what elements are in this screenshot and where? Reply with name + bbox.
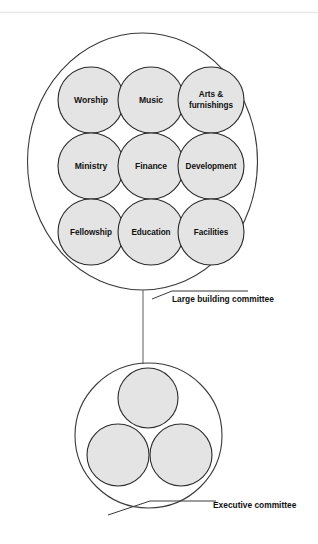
node-circle-arts-and-furnishings [178, 67, 244, 133]
node-label-fellowship: Fellowship [70, 228, 112, 237]
node-arts-and-furnishings[interactable]: Arts & furnishings [178, 67, 244, 133]
node-executive-left[interactable] [87, 424, 149, 486]
large-building-committee-group[interactable]: Worship Music Arts & furnishings Ministr… [28, 33, 258, 290]
node-executive-top[interactable] [118, 368, 178, 428]
node-circle-executive-right [150, 424, 212, 486]
executive-committee-group[interactable] [75, 363, 222, 508]
node-music[interactable]: Music [118, 67, 184, 133]
node-finance[interactable]: Finance [118, 133, 184, 199]
node-development[interactable]: Development [178, 133, 244, 199]
diagram-canvas: Worship Music Arts & furnishings Ministr… [0, 0, 318, 544]
node-circle-executive-top [118, 368, 178, 428]
executive-committee-leader-line [108, 501, 216, 515]
node-label-arts-and-furnishings-line1: Arts & [199, 90, 223, 99]
large-committee-caption: Large building committee [172, 294, 274, 304]
node-label-education: Education [131, 228, 170, 237]
node-executive-right[interactable] [150, 424, 212, 486]
node-education[interactable]: Education [118, 199, 184, 265]
node-label-music: Music [139, 95, 163, 105]
node-worship[interactable]: Worship [58, 67, 124, 133]
node-ministry[interactable]: Ministry [58, 133, 124, 199]
node-label-development: Development [186, 162, 237, 171]
node-circle-executive-left [87, 424, 149, 486]
node-facilities[interactable]: Facilities [178, 199, 244, 265]
executive-committee-caption: Executive committee [213, 500, 297, 510]
node-label-facilities: Facilities [194, 228, 229, 237]
node-label-worship: Worship [74, 95, 108, 105]
node-label-finance: Finance [135, 161, 167, 171]
node-label-ministry: Ministry [75, 161, 108, 171]
node-label-arts-and-furnishings-line2: furnishings [189, 101, 234, 110]
node-fellowship[interactable]: Fellowship [58, 199, 124, 265]
committee-structure-diagram: Worship Music Arts & furnishings Ministr… [0, 0, 318, 544]
